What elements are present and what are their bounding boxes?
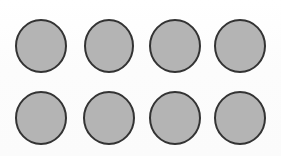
circle-row-2-col-3 — [150, 92, 200, 144]
circle-row-1-col-2 — [85, 20, 133, 72]
circle-row-1-col-4 — [215, 20, 265, 72]
circle-grid — [0, 0, 281, 156]
image-canvas — [0, 0, 281, 156]
circle-row-1-col-3 — [150, 20, 200, 72]
circle-row-1-col-1 — [16, 20, 66, 72]
circle-grid-svg — [0, 0, 281, 156]
circle-row-2-col-2 — [84, 92, 134, 144]
circle-row-2-col-4 — [215, 92, 265, 144]
circle-row-2-col-1 — [16, 92, 66, 144]
